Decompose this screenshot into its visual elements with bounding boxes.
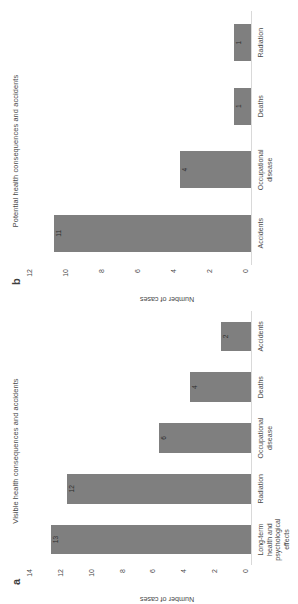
x-tick-label: Radiation [257,11,266,75]
panel-a-axes: 1312642 [36,311,252,565]
x-tick-label: Long-term health and psychological effec… [257,514,291,565]
bar: 12 [67,474,252,503]
panel-b: b Potential health consequences and acci… [0,1,298,301]
bar-column: 4 [36,138,252,202]
bar-column: 11 [36,202,252,266]
panel-b-y-ticks: 024681012 [36,267,252,287]
panel-b-axis-line [251,11,252,265]
panel-b-x-ticks: AccidentsOccupational diseaseDeathsRadia… [254,11,298,265]
bar-column: 1 [36,11,252,75]
bar: 13 [51,525,252,554]
bar: 4 [190,372,252,401]
panel-a-plot: Number of cases 02468101214 1312642 Long… [36,307,298,601]
panel-b-y-axis-label: Number of cases [140,295,194,304]
bar-value-label: 12 [68,474,75,503]
panel-a-axis-line [251,311,252,565]
y-tick-label: 8 [118,569,125,573]
panel-b-bars: 11411 [36,11,252,265]
panel-b-plot: Number of cases 024681012 11411 Accident… [36,7,298,301]
bar-column: 13 [36,514,252,565]
x-tick-label: Radiation [257,463,266,514]
bar-column: 1 [36,75,252,139]
y-tick-label: 0 [242,569,249,573]
bar: 4 [180,151,252,188]
y-tick-label: 12 [56,569,63,577]
bar-column: 6 [36,413,252,464]
x-tick-label: Accidents [257,202,266,266]
bar: 6 [159,423,252,452]
panel-a-y-ticks: 02468101214 [36,567,252,587]
x-tick-label: Deaths [257,75,266,139]
bar: 1 [234,24,252,61]
x-tick-label: Occupational disease [257,413,274,464]
bar-value-label: 2 [222,322,229,351]
bar-value-label: 4 [191,372,198,401]
y-tick-label: 14 [26,569,33,577]
panel-a: a Visible health consequences and accide… [0,301,298,601]
bar-value-label: 13 [52,525,59,554]
y-tick-label: 6 [149,569,156,573]
y-tick-label: 4 [180,569,187,573]
x-tick-label: Accidents [257,311,266,362]
y-tick-label: 6 [134,269,141,273]
bar-value-label: 11 [55,215,62,252]
x-tick-label: Deaths [257,362,266,413]
bar-value-label: 1 [235,88,242,125]
y-tick-label: 0 [242,269,249,273]
x-tick-label: Occupational disease [257,138,274,202]
bar-column: 2 [36,311,252,362]
panel-a-y-axis-label: Number of cases [140,595,194,604]
y-tick-label: 2 [206,269,213,273]
bar-column: 12 [36,463,252,514]
bar: 1 [234,88,252,125]
y-tick-label: 10 [62,269,69,277]
y-tick-label: 2 [211,569,218,573]
y-tick-label: 12 [26,269,33,277]
bar-value-label: 6 [160,423,167,452]
bar-column: 4 [36,362,252,413]
panel-a-title: Visible health consequences and accident… [11,301,20,601]
bar: 11 [54,215,252,252]
bar-value-label: 4 [181,151,188,188]
bar: 2 [221,322,252,351]
panel-a-x-ticks: Long-term health and psychological effec… [254,311,298,565]
y-tick-label: 10 [87,569,94,577]
panel-b-axes: 11411 [36,11,252,265]
panel-b-title: Potential health consequences and accide… [11,1,20,301]
y-tick-label: 4 [170,269,177,273]
y-tick-label: 8 [98,269,105,273]
bar-value-label: 1 [235,24,242,61]
panel-a-bars: 1312642 [36,311,252,565]
